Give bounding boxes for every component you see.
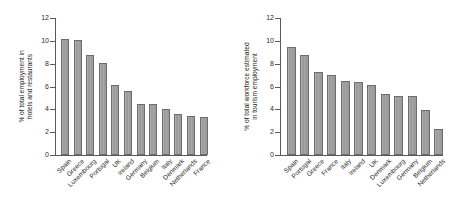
y-tick-label: 8	[33, 60, 49, 67]
left-chart-panel: % of total employment in hotels and rest…	[0, 0, 230, 211]
y-tick-mark	[275, 64, 280, 65]
dual-bar-chart-figure: % of total employment in hotels and rest…	[0, 0, 461, 211]
y-tick-mark	[50, 109, 55, 110]
y-tick-mark	[50, 64, 55, 65]
y-tick-mark	[275, 87, 280, 88]
y-tick-label: 8	[258, 60, 274, 67]
y-tick-mark	[50, 87, 55, 88]
y-tick-mark	[275, 155, 280, 156]
right-chart-panel: % of total workforce estimated in touris…	[230, 0, 461, 211]
y-tick-mark	[50, 18, 55, 19]
y-tick-mark	[275, 109, 280, 110]
y-tick-mark	[50, 155, 55, 156]
y-tick-mark	[50, 41, 55, 42]
y-tick-label: 10	[258, 37, 274, 44]
y-tick-label: 6	[33, 83, 49, 90]
y-tick-label: 12	[33, 14, 49, 21]
y-tick-label: 12	[258, 14, 274, 21]
y-tick-mark	[275, 41, 280, 42]
y-tick-label: 2	[258, 128, 274, 135]
y-tick-mark	[50, 132, 55, 133]
y-tick-label: 0	[258, 151, 274, 158]
y-tick-label: 2	[33, 128, 49, 135]
y-tick-label: 0	[33, 151, 49, 158]
y-tick-label: 10	[33, 37, 49, 44]
y-tick-label: 4	[33, 105, 49, 112]
y-tick-label: 4	[258, 105, 274, 112]
y-tick-label: 6	[258, 83, 274, 90]
y-tick-mark	[275, 132, 280, 133]
y-tick-mark	[275, 18, 280, 19]
